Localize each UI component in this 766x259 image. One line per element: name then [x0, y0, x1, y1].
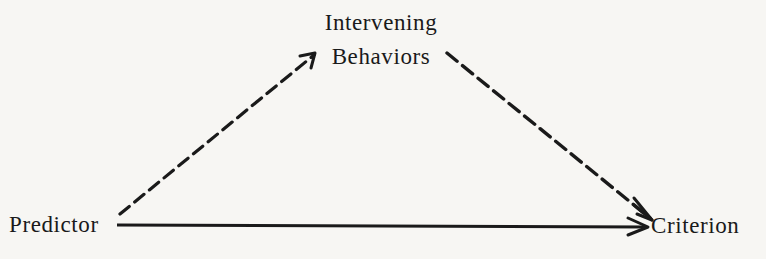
node-predictor: Predictor	[9, 212, 99, 238]
dashed-arrow-intervening-to-criterion	[447, 53, 652, 220]
node-intervening-line1: Intervening	[316, 10, 446, 36]
solid-arrow-predictor-to-criterion	[117, 218, 648, 235]
node-intervening-line2: Behaviors	[316, 44, 446, 70]
node-intervening-behaviors: Intervening Behaviors	[316, 10, 446, 70]
node-criterion: Criterion	[651, 213, 739, 239]
path-diagram: Predictor Criterion Intervening Behavior…	[0, 0, 766, 259]
dashed-arrow-predictor-to-intervening	[120, 53, 315, 214]
